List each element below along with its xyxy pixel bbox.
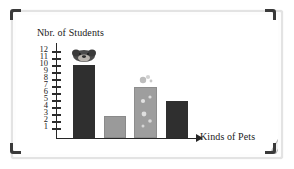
y-tick-10: 10 bbox=[52, 65, 61, 67]
corner-clip-top-right bbox=[264, 8, 277, 21]
bar-chart: Nbr. of Students Kinds of Pets 12 11 10 … bbox=[16, 15, 278, 154]
y-tick-6: 6 bbox=[52, 93, 61, 95]
dog-face-icon bbox=[72, 48, 96, 66]
plot-area: 12 11 10 9 8 7 6 5 4 3 2 1 bbox=[56, 43, 236, 139]
y-tick-3: 3 bbox=[52, 114, 61, 116]
y-tick-5: 5 bbox=[52, 100, 61, 102]
y-tick-9: 9 bbox=[52, 72, 61, 74]
corner-clip-top-left bbox=[9, 8, 22, 21]
bar-no-pets-body bbox=[166, 101, 188, 138]
y-axis-title: Nbr. of Students bbox=[37, 27, 104, 38]
bar-no-pets[interactable]: No pets bbox=[166, 101, 188, 138]
corner-clip-bottom-right bbox=[264, 142, 277, 155]
y-tick-1: 1 bbox=[52, 128, 61, 130]
whiteboard-surface: Nbr. of Students Kinds of Pets 12 11 10 … bbox=[16, 15, 278, 154]
screenshot-root: Nbr. of Students Kinds of Pets 12 11 10 … bbox=[0, 0, 294, 169]
bar-cats[interactable]: Cats bbox=[104, 116, 126, 138]
bar-dogs[interactable]: Dogs bbox=[73, 65, 95, 138]
whiteboard: Nbr. of Students Kinds of Pets 12 11 10 … bbox=[11, 10, 283, 159]
y-tick-7: 7 bbox=[52, 86, 61, 88]
y-tick-label-1: 1 bbox=[34, 122, 48, 131]
corner-clip-bottom-left bbox=[9, 142, 22, 155]
y-tick-12: 12 bbox=[52, 51, 61, 53]
bar-fish[interactable]: Fish bbox=[134, 87, 157, 138]
fish-bowl-icon bbox=[138, 70, 154, 88]
x-axis-arrowhead bbox=[196, 134, 203, 142]
y-tick-4: 4 bbox=[52, 107, 61, 109]
bar-dogs-body bbox=[73, 65, 95, 138]
bar-fish-body bbox=[134, 87, 157, 138]
y-tick-2: 2 bbox=[52, 121, 61, 123]
x-axis-line bbox=[56, 138, 196, 139]
bar-cats-body bbox=[104, 116, 126, 138]
y-tick-11: 11 bbox=[52, 58, 61, 60]
y-tick-8: 8 bbox=[52, 79, 61, 81]
